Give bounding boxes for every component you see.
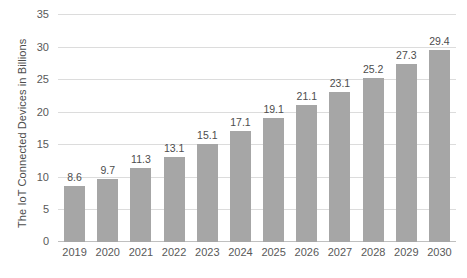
bar[interactable] xyxy=(363,78,384,242)
y-tick-label-10: 10 xyxy=(37,171,49,183)
bar-value-label: 23.1 xyxy=(330,77,350,89)
x-tick-label: 2023 xyxy=(191,246,224,262)
bar-slot: 27.3 xyxy=(390,14,423,242)
x-tick-label: 2020 xyxy=(91,246,124,262)
bar[interactable] xyxy=(230,131,251,242)
x-tick-label: 2022 xyxy=(158,246,191,262)
y-tick-label-5: 5 xyxy=(43,203,49,215)
bar-slot: 29.4 xyxy=(423,14,456,242)
bar-slot: 19.1 xyxy=(257,14,290,242)
bar[interactable] xyxy=(296,105,317,242)
bar-slot: 8.6 xyxy=(58,14,91,242)
bar-slot: 11.3 xyxy=(124,14,157,242)
x-tick-label: 2019 xyxy=(58,246,91,262)
bar[interactable] xyxy=(64,186,85,242)
bar-value-label: 19.1 xyxy=(263,103,283,115)
bar-slot: 9.7 xyxy=(91,14,124,242)
plot-area: 35 30 25 20 15 10 5 0 8.6 9.7 xyxy=(58,14,456,242)
x-tick-label: 2028 xyxy=(357,246,390,262)
y-axis-title: The IoT Connected Devices in Billions xyxy=(16,28,30,228)
bar-value-label: 13.1 xyxy=(164,142,184,154)
y-tick-label-0: 0 xyxy=(43,235,49,247)
bar[interactable] xyxy=(263,118,284,242)
bar-slot: 13.1 xyxy=(158,14,191,242)
bar-value-label: 15.1 xyxy=(197,129,217,141)
x-tick-label: 2025 xyxy=(257,246,290,262)
bar[interactable] xyxy=(396,64,417,242)
bar-value-label: 25.2 xyxy=(363,63,383,75)
x-tick-label: 2024 xyxy=(224,246,257,262)
bar[interactable] xyxy=(429,50,450,242)
bar-value-label: 27.3 xyxy=(396,49,416,61)
bar-value-label: 29.4 xyxy=(429,35,449,47)
bar[interactable] xyxy=(130,168,151,242)
x-axis-labels: 2019 2020 2021 2022 2023 2024 2025 2026 … xyxy=(58,246,456,262)
bar-value-label: 17.1 xyxy=(230,116,250,128)
bar[interactable] xyxy=(197,144,218,242)
bar-series: 8.6 9.7 11.3 13.1 15.1 17.1 xyxy=(58,14,456,242)
bar-value-label: 21.1 xyxy=(297,90,317,102)
bar-value-label: 8.6 xyxy=(67,171,82,183)
bar[interactable] xyxy=(97,179,118,242)
bar-slot: 23.1 xyxy=(323,14,356,242)
x-tick-label: 2021 xyxy=(124,246,157,262)
bar-slot: 15.1 xyxy=(191,14,224,242)
y-tick-label-30: 30 xyxy=(37,41,49,53)
chart-container: The IoT Connected Devices in Billions 35… xyxy=(0,0,467,278)
y-tick-label-15: 15 xyxy=(37,138,49,150)
bar-value-label: 9.7 xyxy=(100,164,115,176)
y-tick-label-35: 35 xyxy=(37,8,49,20)
y-tick-label-25: 25 xyxy=(37,73,49,85)
bar-slot: 21.1 xyxy=(290,14,323,242)
bar-value-label: 11.3 xyxy=(131,153,151,165)
x-tick-label: 2026 xyxy=(290,246,323,262)
bar[interactable] xyxy=(329,92,350,242)
x-tick-label: 2029 xyxy=(390,246,423,262)
bar-slot: 25.2 xyxy=(357,14,390,242)
x-tick-label: 2030 xyxy=(423,246,456,262)
bar-slot: 17.1 xyxy=(224,14,257,242)
y-tick-label-20: 20 xyxy=(37,106,49,118)
bar[interactable] xyxy=(164,157,185,242)
x-tick-label: 2027 xyxy=(323,246,356,262)
